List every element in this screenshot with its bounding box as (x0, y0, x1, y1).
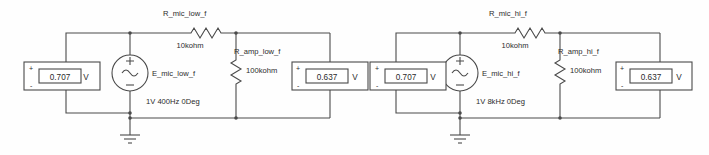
resistor-r-mic-low-f-value: 10kohm (176, 41, 203, 50)
voltmeter-source-low-unit: V (83, 73, 89, 82)
ac-source-e-mic-hi-f-label: E_mic_hi_f (482, 69, 520, 78)
circuit-high-frequency: R_mic_hi_f 10kohm R_amp_hi_f 100kohm E_m… (370, 9, 692, 143)
voltmeter-source-hi[interactable]: 0.707 V + - (370, 62, 446, 90)
resistor-r-amp-hi-f[interactable] (555, 33, 565, 118)
resistor-r-amp-low-f-label: R_amp_low_f (234, 47, 281, 56)
ac-source-e-mic-low-f[interactable] (112, 33, 148, 113)
terminal-plus-sign: + (620, 65, 624, 72)
resistor-r-amp-hi-f-label: R_amp_hi_f (558, 47, 600, 56)
ac-source-e-mic-hi-f-spec: 1V 8kHz 0Deg (476, 97, 525, 106)
junction-dot (234, 116, 238, 120)
voltmeter-load-low-value: 0.637 (317, 73, 338, 82)
schematic-canvas: R_mic_low_f 10kohm R_amp_low_f 100kohm E… (0, 0, 709, 155)
terminal-plus-sign: + (296, 65, 300, 72)
voltmeter-load-hi-unit: V (676, 73, 682, 82)
wire-bottom-rail-low (130, 113, 330, 135)
voltmeter-load-low[interactable]: 0.637 V + - (292, 62, 368, 90)
junction-dot (128, 116, 132, 120)
ground-symbol-low (120, 135, 140, 143)
voltmeter-load-hi[interactable]: 0.637 V + - (616, 62, 692, 90)
resistor-r-mic-hi-f-label: R_mic_hi_f (489, 9, 528, 18)
resistor-r-amp-low-f-value: 100kohm (246, 66, 277, 75)
voltmeter-source-hi-unit: V (430, 73, 436, 82)
ac-source-e-mic-hi-f[interactable] (442, 33, 478, 113)
voltmeter-load-hi-value: 0.637 (641, 73, 662, 82)
resistor-r-mic-hi-f-value: 10kohm (501, 41, 528, 50)
resistor-r-mic-low-f[interactable] (188, 28, 224, 38)
voltmeter-source-low-value: 0.707 (50, 73, 71, 82)
terminal-plus-sign: + (29, 65, 33, 72)
voltmeter-source-hi-value: 0.707 (396, 73, 417, 82)
resistor-r-amp-low-f[interactable] (231, 33, 241, 118)
resistor-r-amp-hi-f-value: 100kohm (570, 66, 601, 75)
junction-dot (458, 116, 462, 120)
terminal-plus-sign: + (375, 65, 379, 72)
ac-source-e-mic-low-f-spec: 1V 400Hz 0Deg (146, 97, 200, 106)
circuit-low-frequency: R_mic_low_f 10kohm R_amp_low_f 100kohm E… (24, 9, 368, 143)
resistor-r-mic-hi-f[interactable] (512, 28, 548, 38)
voltmeter-source-low[interactable]: 0.707 V + - (24, 62, 100, 90)
ac-source-e-mic-low-f-label: E_mic_low_f (152, 69, 196, 78)
ground-symbol-hi (450, 135, 470, 143)
junction-dot (234, 31, 238, 35)
junction-dot (558, 31, 562, 35)
voltmeter-load-low-unit: V (352, 73, 358, 82)
junction-dot (558, 116, 562, 120)
resistor-r-mic-low-f-label: R_mic_low_f (163, 9, 207, 18)
